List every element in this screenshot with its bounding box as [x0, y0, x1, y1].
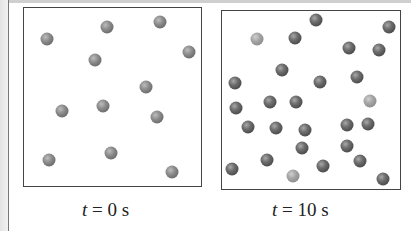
caption-t10: t = 10 s [272, 199, 329, 221]
top-edge-strip [9, 0, 411, 3]
particle-t0 [140, 81, 153, 94]
caption-t10-equation: = 10 s [277, 199, 328, 220]
particle-t10 [310, 14, 323, 27]
particle-t0 [105, 147, 118, 160]
particle-t0 [43, 154, 56, 167]
particle-t10 [261, 154, 274, 167]
particle-t0 [151, 111, 164, 124]
particle-t10 [289, 32, 302, 45]
particle-t10 [383, 21, 396, 34]
particle-t0 [101, 21, 114, 34]
particle-t10 [317, 160, 330, 173]
particle-t10 [377, 173, 390, 186]
caption-t0-equation: = 0 s [87, 199, 129, 220]
particle-t10 [354, 155, 367, 168]
particle-t10 [362, 118, 375, 131]
particle-t0 [56, 105, 69, 118]
particle-t10 [229, 77, 242, 90]
particle-t10 [287, 170, 300, 183]
particle-t10 [270, 122, 283, 135]
particle-t10 [230, 102, 243, 115]
particle-t0 [41, 33, 54, 46]
particle-t10 [364, 95, 377, 108]
particle-t0 [97, 100, 110, 113]
particle-t10 [251, 33, 264, 46]
particle-t10 [226, 163, 239, 176]
particle-t10 [341, 119, 354, 132]
particle-t10 [242, 121, 255, 134]
particle-t10 [296, 142, 309, 155]
page-edge-strip [0, 0, 9, 231]
particle-t0 [166, 166, 179, 179]
particle-t0 [154, 16, 167, 29]
particle-t10 [351, 71, 364, 84]
particle-t10 [341, 140, 354, 153]
particle-t10 [290, 96, 303, 109]
particle-t10 [276, 64, 289, 77]
particle-t10 [264, 96, 277, 109]
particle-t0 [183, 46, 196, 59]
particle-t10 [373, 44, 386, 57]
particle-t10 [343, 42, 356, 55]
particle-t10 [314, 76, 327, 89]
caption-t0: t = 0 s [82, 199, 129, 221]
particle-t10 [299, 124, 312, 137]
particle-t0 [89, 54, 102, 67]
